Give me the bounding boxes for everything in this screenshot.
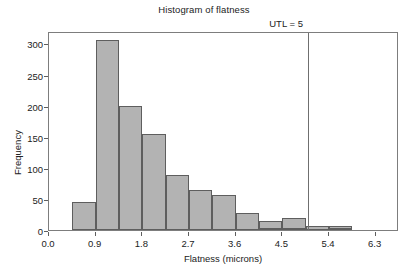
plot-area xyxy=(49,33,397,230)
histogram-bar-tail xyxy=(259,228,282,230)
x-tick-label: 6.3 xyxy=(368,238,381,249)
histogram-bar xyxy=(72,202,95,230)
histogram-bar-tail xyxy=(329,228,352,230)
x-tick-label: 0.9 xyxy=(88,238,101,249)
utl-reference-line xyxy=(308,33,309,230)
histogram-bar xyxy=(142,134,165,230)
x-tick-label: 1.8 xyxy=(135,238,148,249)
histogram-bar xyxy=(119,106,142,230)
x-tick-mark xyxy=(235,232,236,236)
histogram-figure: Histogram of flatness UTL = 5 Frequency … xyxy=(0,0,408,277)
histogram-bar xyxy=(236,213,259,230)
x-tick-mark xyxy=(48,232,49,236)
x-tick-label: 0.0 xyxy=(41,238,54,249)
histogram-bar xyxy=(212,195,235,230)
histogram-bar xyxy=(96,40,119,230)
x-tick-label: 4.5 xyxy=(275,238,288,249)
x-tick-mark xyxy=(95,232,96,236)
histogram-bar xyxy=(166,175,189,230)
x-axis-label: Flatness (microns) xyxy=(48,253,398,264)
x-tick-label: 3.6 xyxy=(228,238,241,249)
x-tick-label: 2.7 xyxy=(181,238,194,249)
histogram-bar xyxy=(189,190,212,230)
x-tick-mark xyxy=(141,232,142,236)
histogram-bar-tail xyxy=(282,228,305,230)
x-tick-mark xyxy=(281,232,282,236)
plot-frame xyxy=(48,32,398,231)
x-tick-mark xyxy=(375,232,376,236)
x-tick-mark xyxy=(188,232,189,236)
x-tick-mark xyxy=(328,232,329,236)
x-tick-label: 5.4 xyxy=(321,238,334,249)
